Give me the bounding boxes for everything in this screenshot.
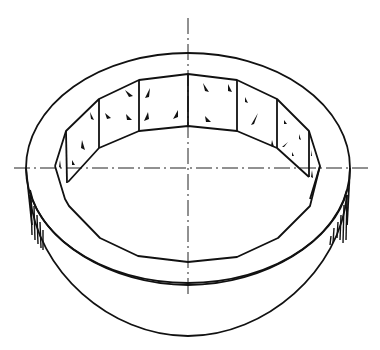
ring-svg <box>0 0 380 350</box>
ring-drawing <box>0 0 380 350</box>
facet-edge-1 <box>66 131 67 183</box>
left-side-hatching <box>31 200 43 250</box>
